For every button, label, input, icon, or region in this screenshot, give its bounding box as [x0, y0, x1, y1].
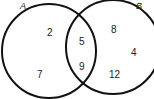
a-only-value-2: 7	[37, 69, 43, 80]
set-b-label: B	[136, 1, 142, 11]
b-only-value-1: 8	[111, 24, 117, 35]
circle-a	[2, 4, 96, 98]
a-only-value-1: 2	[47, 27, 53, 38]
intersection-value-1: 5	[79, 36, 85, 47]
b-only-value-2: 4	[131, 47, 137, 58]
intersection-value-2: 9	[79, 61, 85, 72]
set-a-label: A	[20, 1, 26, 11]
b-only-value-3: 12	[109, 69, 120, 80]
